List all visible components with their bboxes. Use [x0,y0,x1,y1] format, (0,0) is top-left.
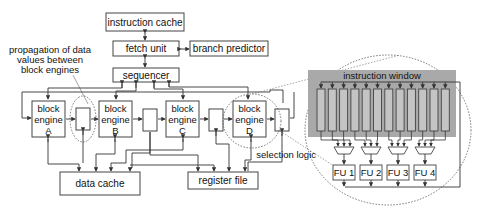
svg-text:FU 1: FU 1 [334,167,355,178]
data-cache: data cache [60,172,140,195]
functional-unit-1: FU 1 [333,165,355,180]
window-entry [407,89,415,131]
register-file-label: register file [199,175,248,186]
window-entry [430,89,438,131]
window-entry [351,89,359,131]
svg-text:block engines: block engines [21,64,79,75]
svg-text:engine: engine [168,114,197,125]
block-engine-d: block engine D [233,101,266,137]
svg-text:A: A [45,125,52,136]
svg-text:block: block [104,103,126,114]
register-file: register file [188,172,258,189]
svg-text:block: block [238,103,260,114]
functional-unit-3: FU 3 [387,165,409,180]
functional-unit-2: FU 2 [360,165,382,180]
svg-text:engine: engine [101,114,130,125]
svg-text:FU 4: FU 4 [415,167,436,178]
selection-logic-label: selection logic [256,149,316,160]
functional-unit-4: FU 4 [414,165,436,180]
window-entry [374,89,382,131]
svg-text:block: block [37,103,59,114]
window-entry [419,89,427,131]
block-engine-b: block engine B [99,101,132,137]
branch-predictor: branch predictor [190,41,268,56]
svg-text:block: block [171,103,193,114]
window-entry [362,89,370,131]
window-entry [317,89,325,131]
svg-text:FU 2: FU 2 [361,167,382,178]
block-engine-a: block engine A [32,101,65,137]
branch-predictor-label: branch predictor [193,43,266,54]
window-entry [328,89,336,131]
svg-text:engine: engine [34,114,63,125]
window-entry [385,89,393,131]
instruction-cache: instruction cache [106,13,184,31]
svg-text:FU 3: FU 3 [388,167,409,178]
window-entry [396,89,404,131]
data-cache-label: data cache [76,178,125,189]
block-engine-diagram: instruction cache fetch unit branch pred… [0,0,486,215]
fetch-unit-label: fetch unit [126,43,167,54]
functional-units: FU 1FU 2FU 3FU 4 [321,131,445,186]
fetch-unit: fetch unit [113,41,179,56]
instruction-window: instruction window [308,70,460,187]
window-entry [441,89,449,131]
propagation-annotation: propagation of data values between block… [9,44,92,104]
sequencer-label: sequencer [123,70,170,81]
block-engine-c: block engine C [166,101,199,137]
sequencer: sequencer [113,68,179,82]
diagram-canvas: instruction cache fetch unit branch pred… [0,0,486,215]
svg-text:D: D [246,125,253,136]
window-entry [340,89,348,131]
instruction-window-label: instruction window [343,70,421,81]
svg-text:C: C [179,125,186,136]
svg-text:engine: engine [235,114,264,125]
svg-text:B: B [112,125,118,136]
instruction-cache-label: instruction cache [107,17,182,28]
